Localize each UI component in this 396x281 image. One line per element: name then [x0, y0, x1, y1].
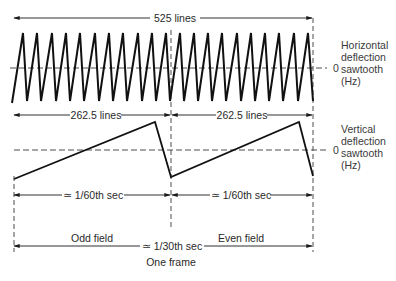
- vertical-zero-label: 0: [333, 144, 339, 156]
- label-odd-262-lines: 262.5 lines: [71, 109, 122, 121]
- svg-text:sawtooth: sawtooth: [341, 63, 383, 75]
- svg-text:deflection: deflection: [341, 51, 386, 63]
- svg-text:Vertical: Vertical: [341, 123, 375, 135]
- label-even-60th-sec: ≃ 1/60th sec: [211, 189, 271, 201]
- dimension-odd-262-lines: 262.5 lines: [14, 109, 170, 121]
- svg-text:Horizontal: Horizontal: [341, 39, 388, 51]
- svg-text:deflection: deflection: [341, 135, 386, 147]
- label-frame-30th-sec: ≃ 1/30th sec: [142, 240, 202, 252]
- even-field-label: Even field: [218, 232, 264, 244]
- label-even-262-lines: 262.5 lines: [217, 109, 268, 121]
- svg-text:(Hz): (Hz): [341, 75, 361, 87]
- dimension-525-lines: 525 lines: [14, 12, 312, 24]
- dimension-odd-60th-sec: ≃ 1/60th sec: [14, 189, 170, 201]
- label-525-lines: 525 lines: [154, 12, 196, 24]
- interlace-scan-diagram: 525 lines 0 Horizontal deflection sawtoo…: [0, 0, 396, 281]
- horizontal-waveform-label: Horizontal deflection sawtooth (Hz): [341, 39, 388, 87]
- horizontal-zero-label: 0: [333, 62, 339, 74]
- odd-field-label: Odd field: [71, 232, 113, 244]
- svg-text:(Hz): (Hz): [341, 159, 361, 171]
- vertical-sawtooth-waveform: [14, 122, 313, 179]
- dimension-frame-30th-sec: ≃ 1/30th sec: [14, 240, 312, 252]
- dimension-even-60th-sec: ≃ 1/60th sec: [172, 189, 312, 201]
- svg-text:sawtooth: sawtooth: [341, 147, 383, 159]
- dimension-even-262-lines: 262.5 lines: [172, 109, 312, 121]
- one-frame-label: One frame: [146, 256, 196, 268]
- label-odd-60th-sec: ≃ 1/60th sec: [63, 189, 123, 201]
- vertical-waveform-label: Vertical deflection sawtooth (Hz): [341, 123, 386, 171]
